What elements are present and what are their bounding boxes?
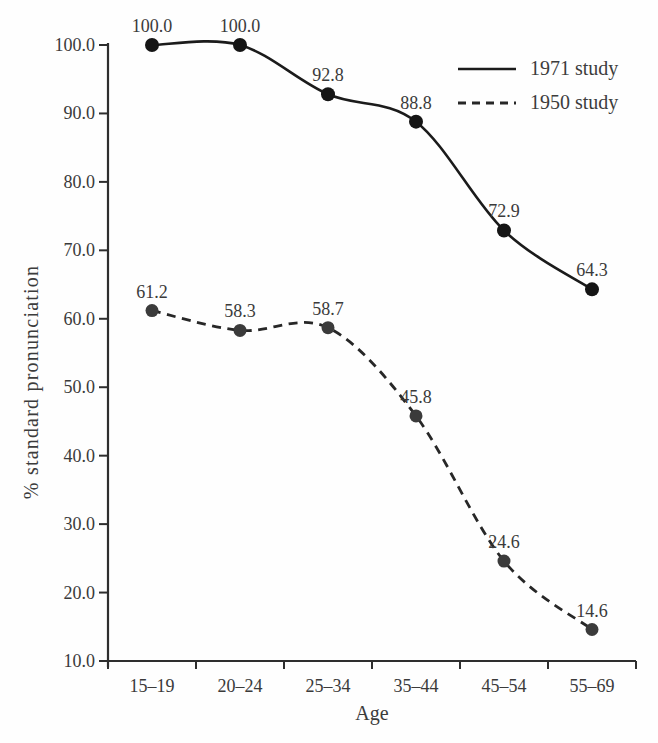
- data-point-marker: [322, 321, 335, 334]
- data-point-label: 58.3: [224, 301, 256, 321]
- data-point-label: 92.8: [312, 65, 344, 85]
- y-tick-label: 80.0: [64, 172, 96, 192]
- x-tick-label: 35–44: [394, 676, 439, 696]
- data-point-label: 88.8: [400, 93, 432, 113]
- y-tick-label: 100.0: [55, 35, 96, 55]
- x-tick-label: 45–54: [482, 676, 527, 696]
- data-point-marker: [410, 409, 423, 422]
- x-tick-label: 15–19: [130, 676, 175, 696]
- legend-item-1971: 1971 study: [458, 57, 618, 80]
- y-tick-label: 60.0: [64, 309, 96, 329]
- x-tick-label: 20–24: [218, 676, 263, 696]
- data-point-marker: [146, 304, 159, 317]
- y-tick-label: 40.0: [64, 446, 96, 466]
- solid-line-icon: [458, 65, 516, 73]
- x-tick-label: 25–34: [306, 676, 351, 696]
- y-axis-title: % standard pronunciation: [20, 265, 43, 499]
- y-tick-label: 20.0: [64, 583, 96, 603]
- data-point-label: 14.6: [576, 601, 608, 621]
- legend-label-1950: 1950 study: [530, 91, 618, 114]
- dashed-line-icon: [458, 99, 516, 107]
- x-axis-title: Age: [108, 702, 636, 725]
- data-point-label: 72.9: [488, 201, 520, 221]
- data-point-label: 100.0: [220, 16, 261, 36]
- y-tick-label: 90.0: [64, 103, 96, 123]
- x-tick-label: 55–69: [570, 676, 615, 696]
- data-point-marker: [234, 324, 247, 337]
- y-tick-label: 70.0: [64, 240, 96, 260]
- legend: 1971 study 1950 study: [458, 57, 618, 114]
- data-point-marker: [585, 282, 599, 296]
- data-point-marker: [586, 623, 599, 636]
- data-point-marker: [498, 555, 511, 568]
- data-point-label: 64.3: [576, 260, 608, 280]
- data-point-label: 100.0: [132, 16, 173, 36]
- legend-label-1971: 1971 study: [530, 57, 618, 80]
- data-point-label: 24.6: [488, 532, 520, 552]
- y-tick-label: 50.0: [64, 377, 96, 397]
- data-point-marker: [233, 38, 247, 52]
- figure: 100.090.080.070.060.050.040.030.020.010.…: [0, 0, 658, 743]
- data-point-marker: [145, 38, 159, 52]
- data-point-label: 58.7: [312, 299, 344, 319]
- data-point-marker: [409, 115, 423, 129]
- data-point-marker: [497, 223, 511, 237]
- series-line-1950-study: [152, 311, 592, 630]
- legend-item-1950: 1950 study: [458, 91, 618, 114]
- y-tick-label: 10.0: [64, 651, 96, 671]
- y-tick-label: 30.0: [64, 514, 96, 534]
- data-point-label: 45.8: [400, 387, 432, 407]
- data-point-marker: [321, 87, 335, 101]
- data-point-label: 61.2: [136, 282, 168, 302]
